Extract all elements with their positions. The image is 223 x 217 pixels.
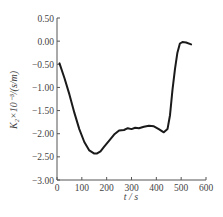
x-tick-label: 0 <box>55 183 60 193</box>
x-tick-label: 100 <box>75 183 90 193</box>
y-tick-label: −0.50 <box>32 60 54 70</box>
y-tick-label: −3.00 <box>32 176 54 186</box>
x-tick-label: 600 <box>199 183 214 193</box>
y-tick-label: −2.50 <box>32 152 54 162</box>
y-tick-label: −1.50 <box>32 106 54 116</box>
x-tick-label: 200 <box>100 183 115 193</box>
ticks: 0.500.00−0.50−1.00−1.50−2.00−2.50−3.0001… <box>32 14 213 194</box>
x-tick-label: 400 <box>149 183 164 193</box>
y-tick-label: 0.50 <box>37 14 54 24</box>
y-tick-label: −1.00 <box>32 83 54 93</box>
y-tick-label: −2.00 <box>32 129 54 139</box>
line-chart: 0.500.00−0.50−1.00−1.50−2.00−2.50−3.0001… <box>0 0 223 217</box>
x-axis-label: t / s <box>124 191 139 202</box>
y-axis-label: K₂×10⁻³/(s/m) <box>8 70 20 130</box>
y-tick-label: 0.00 <box>37 37 54 47</box>
x-tick-label: 500 <box>174 183 189 193</box>
data-line <box>60 42 192 154</box>
